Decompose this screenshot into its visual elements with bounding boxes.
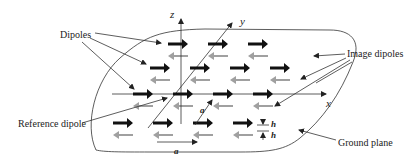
dipole-arrow xyxy=(213,89,233,99)
dipole-arrow xyxy=(133,89,153,99)
image-dipoles-leader-1 xyxy=(314,54,345,56)
dipoles-leader-1 xyxy=(95,33,161,43)
image-dipole-arrow xyxy=(193,131,213,139)
image-dipole-arrow xyxy=(230,76,250,84)
image-dipole-arrow xyxy=(190,76,210,84)
dipole-arrow xyxy=(253,89,273,99)
dipole-arrow xyxy=(270,63,290,73)
dipole-arrow xyxy=(153,118,173,128)
image-dipole-arrow xyxy=(173,102,193,110)
image-dipole-arrow xyxy=(213,102,233,110)
image-dipole-arrow xyxy=(113,131,133,139)
image-dipole-arrow xyxy=(248,52,268,60)
y-axis xyxy=(148,23,232,128)
image-dipole-arrow xyxy=(168,52,188,60)
image-dipoles-leader-4 xyxy=(316,62,352,83)
height-top-label: h xyxy=(271,119,276,129)
dipoles-leader-3 xyxy=(82,42,134,89)
image-dipole-arrow xyxy=(208,52,228,60)
dipole-arrow xyxy=(113,118,133,128)
image-dipoles-label: Image dipoles xyxy=(347,48,403,59)
dipole-arrow xyxy=(233,118,253,128)
dipole-arrow xyxy=(168,39,188,49)
height-bottom-label: h xyxy=(271,130,276,140)
spacing-a-diag-label: a xyxy=(200,105,205,115)
z-axis-label: z xyxy=(169,8,175,20)
image-dipole-arrow xyxy=(233,131,253,139)
spacing-a-label: a xyxy=(174,146,179,156)
image-dipole-arrow xyxy=(253,102,273,110)
dipole-arrow xyxy=(150,63,170,73)
image-dipole-arrow xyxy=(150,76,170,84)
dipole-array-diagram: z y x Dipoles Image dipoles Reference di… xyxy=(0,0,413,163)
dipole-arrow xyxy=(173,89,193,99)
image-dipole-arrow xyxy=(270,76,290,84)
ground-plane-label: Ground plane xyxy=(338,137,393,148)
dipoles-label: Dipoles xyxy=(60,29,91,40)
y-axis-label: y xyxy=(239,15,245,27)
dipole-arrow xyxy=(248,39,268,49)
image-dipole-arrow xyxy=(153,131,173,139)
x-axis-label: x xyxy=(325,97,331,109)
dipole-arrow xyxy=(230,63,250,73)
reference-dipole-label: Reference dipole xyxy=(18,118,87,129)
ground-plane-leader xyxy=(299,130,336,140)
